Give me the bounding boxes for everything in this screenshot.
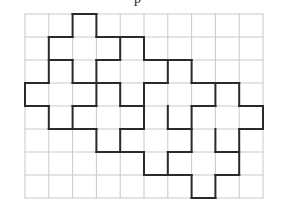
tiling-grid-diagram	[0, 0, 281, 200]
